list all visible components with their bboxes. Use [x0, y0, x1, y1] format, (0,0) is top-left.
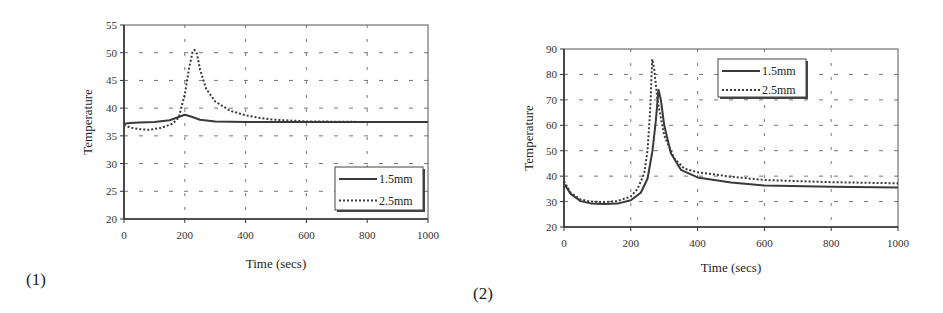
y-tick-label: 90: [546, 43, 558, 55]
y-tick-label: 80: [546, 68, 558, 80]
x-tick-label: 400: [237, 229, 254, 241]
x-tick-label: 800: [359, 229, 376, 241]
legend-label: 2.5mm: [379, 194, 413, 208]
series-line-1-5mm: [564, 90, 898, 204]
y-axis-label: Temperature: [521, 105, 536, 171]
y-tick-label: 35: [106, 130, 118, 142]
y-tick-label: 50: [106, 47, 118, 59]
x-tick-label: 1000: [887, 237, 910, 249]
y-tick-label: 60: [546, 119, 558, 131]
legend-label: 1.5mm: [762, 64, 796, 78]
y-tick-label: 20: [546, 221, 558, 233]
x-tick-label: 200: [177, 229, 194, 241]
y-tick-label: 20: [106, 213, 118, 225]
x-tick-label: 0: [561, 237, 567, 249]
chart-1: 202530354045505502004006008001000Time (s…: [80, 19, 440, 271]
figure-canvas: 202530354045505502004006008001000Time (s…: [0, 0, 943, 313]
x-tick-label: 600: [756, 237, 773, 249]
x-tick-label: 800: [823, 237, 840, 249]
y-axis-label: Temperature: [80, 89, 95, 155]
x-axis-label: Time (secs): [701, 260, 762, 275]
y-tick-label: 30: [546, 196, 558, 208]
legend-label: 2.5mm: [762, 83, 796, 97]
x-tick-label: 0: [121, 229, 127, 241]
panel-label-2: (2): [473, 284, 493, 304]
y-tick-label: 50: [546, 145, 558, 157]
chart-2: 203040506070809002004006008001000Time (s…: [521, 43, 910, 275]
series-line-2-5mm: [124, 50, 428, 130]
y-tick-label: 30: [106, 158, 118, 170]
y-tick-label: 55: [106, 19, 118, 31]
y-tick-label: 40: [546, 170, 558, 182]
y-tick-label: 70: [546, 94, 558, 106]
y-tick-label: 40: [106, 102, 118, 114]
x-tick-label: 200: [623, 237, 640, 249]
legend-label: 1.5mm: [379, 172, 413, 186]
x-tick-label: 400: [689, 237, 706, 249]
panel-label-1: (1): [26, 270, 46, 290]
x-axis-label: Time (secs): [246, 256, 307, 271]
y-tick-label: 25: [106, 185, 118, 197]
y-tick-label: 45: [106, 74, 118, 86]
x-tick-label: 1000: [417, 229, 440, 241]
x-tick-label: 600: [298, 229, 315, 241]
